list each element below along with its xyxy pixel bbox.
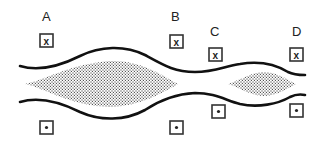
dot-marker-b — [170, 121, 183, 134]
cross-marker-b: x — [170, 35, 183, 48]
label-b: B — [171, 9, 180, 24]
cross-marker-c: x — [209, 48, 222, 61]
label-d: D — [292, 24, 301, 39]
dot-icon — [217, 110, 220, 113]
dot-marker-d — [290, 104, 303, 117]
cross-icon: x — [294, 50, 300, 61]
cross-icon: x — [174, 37, 180, 48]
stippled-region-small — [228, 72, 296, 96]
label-c: C — [210, 24, 219, 39]
dot-icon — [45, 126, 48, 129]
cross-icon: x — [44, 36, 50, 47]
dot-marker-c — [212, 105, 225, 118]
label-a: A — [42, 9, 51, 24]
dot-icon — [175, 126, 178, 129]
channel-diagram: A B C D x x x x — [0, 0, 321, 142]
top-wall-curve — [20, 48, 305, 75]
dot-marker-a — [40, 121, 53, 134]
cross-icon: x — [213, 50, 219, 61]
cross-marker-d: x — [290, 48, 303, 61]
dot-icon — [295, 109, 298, 112]
cross-marker-a: x — [40, 34, 53, 47]
